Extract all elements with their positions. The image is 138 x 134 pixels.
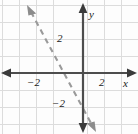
x-tick-label-2: 2 xyxy=(99,77,105,88)
dashed-line-graph xyxy=(27,5,96,132)
y-axis-label: y xyxy=(89,9,94,20)
y-tick-label-2: 2 xyxy=(57,33,63,44)
x-axis xyxy=(1,69,137,78)
y-tick-label-negative-2: −2 xyxy=(52,98,65,109)
y-axis-arrow-down xyxy=(79,123,88,133)
graph-svg xyxy=(0,0,138,134)
dashed-line-arrow-lower xyxy=(87,121,96,132)
x-tick-label-negative-2: −2 xyxy=(27,77,40,88)
dashed-line-arrow-upper xyxy=(27,5,36,16)
grid-lines xyxy=(0,0,138,134)
x-axis-label: x xyxy=(123,78,128,89)
coordinate-plane-figure: y x 2 −2 −2 2 xyxy=(0,0,138,134)
x-axis-arrow-right xyxy=(127,69,137,78)
y-axis-arrow-up xyxy=(79,3,88,13)
